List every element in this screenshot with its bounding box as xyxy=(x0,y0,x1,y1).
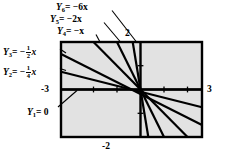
label-y4: Y4= −x xyxy=(57,27,84,37)
label-y3-denominator: 2 xyxy=(26,52,31,60)
label-y2-denominator: 4 xyxy=(26,72,31,80)
label-y2: Y2= −14x xyxy=(3,65,36,79)
window-label-ymin: -2 xyxy=(102,142,110,152)
leader-y5 xyxy=(104,23,121,43)
label-y2-fraction: 14 xyxy=(26,65,31,79)
window-label-xmin: -3 xyxy=(41,85,49,95)
window-label-xmax: 3 xyxy=(207,85,212,95)
label-y3: Y3= −12x xyxy=(3,45,36,59)
label-y3-eq-pre: = − xyxy=(12,47,25,57)
label-y5: Y5= −2x xyxy=(50,15,82,25)
label-y1: Y1= 0 xyxy=(27,108,49,118)
label-y2-eq-post: x xyxy=(32,67,37,77)
label-y6-eq: = −6x xyxy=(65,2,88,12)
label-y3-numerator: 1 xyxy=(26,45,31,52)
label-y4-eq: = −x xyxy=(66,26,84,36)
label-y3-fraction: 12 xyxy=(26,45,31,59)
label-y2-numerator: 1 xyxy=(26,65,31,72)
label-y2-eq-pre: = − xyxy=(12,67,25,77)
label-y6: Y6= −6x xyxy=(56,3,88,13)
window-label-ymax: 2 xyxy=(125,29,130,39)
label-y3-eq-post: x xyxy=(32,47,37,57)
figure-container: Y6= −6x Y5= −2x Y4= −x Y3= −12x Y2= −14x… xyxy=(0,0,231,157)
label-y5-eq: = −2x xyxy=(59,14,82,24)
label-y1-eq: = 0 xyxy=(36,107,49,117)
